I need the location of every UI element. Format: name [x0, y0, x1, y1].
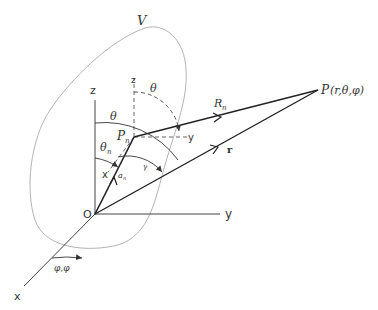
x-axis-label: x [14, 290, 21, 303]
arc-theta-n [95, 158, 118, 167]
theta-n-label: θ [100, 141, 107, 154]
vector-an-subscript: n [123, 175, 126, 181]
field-point-label: P [320, 83, 330, 97]
theta-local-label: θ [150, 82, 157, 95]
source-point-subscript: n [125, 137, 130, 145]
field-point-coords: (r,θ,φ) [330, 84, 364, 97]
vector-r-label: r [227, 144, 233, 155]
vector-rn-subscript: n [222, 104, 227, 112]
local-x-label: x [102, 169, 108, 180]
vector-rn [134, 90, 318, 137]
phi-label: φ,φ [54, 263, 70, 273]
arc-theta-local [134, 92, 179, 131]
local-z-label: z [131, 75, 136, 85]
local-y-label: y [188, 132, 194, 143]
diagram-canvas: V z y x O z y x θ θ θ n γ P n a n R n r … [0, 0, 378, 310]
vector-r [95, 90, 318, 214]
vector-rn-label: R [213, 97, 222, 110]
arc-phi [52, 257, 82, 258]
origin-label: O [83, 208, 92, 221]
z-axis-label: z [90, 84, 96, 97]
arc-gamma [118, 156, 162, 172]
y-axis-label: y [225, 207, 232, 221]
theta-n-subscript: n [107, 148, 112, 156]
region-label: V [137, 13, 148, 28]
gamma-label: γ [143, 163, 148, 171]
arrowhead-rn [213, 113, 221, 122]
region-v-outline [30, 27, 186, 249]
theta-global-label: θ [110, 110, 117, 123]
x-axis [24, 214, 95, 286]
